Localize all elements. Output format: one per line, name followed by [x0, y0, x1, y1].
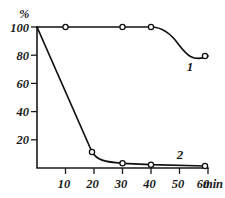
x-axis-ticks [66, 168, 209, 174]
y-tick-label-40: 40 [16, 105, 30, 119]
x-tick-label-20: 20 [85, 177, 99, 191]
y-axis-unit-label: % [19, 7, 29, 21]
x-tick-label-30: 30 [114, 177, 128, 191]
y-tick-label-60: 60 [17, 77, 30, 91]
x-tick-label-10: 10 [58, 177, 71, 191]
curve-label-1: 1 [187, 59, 194, 74]
curve-label-2: 2 [176, 147, 184, 162]
y-tick-label-100: 100 [10, 21, 30, 35]
y-tick-label-80: 80 [17, 49, 30, 63]
x-axis-unit-label: min [203, 177, 223, 191]
chart-plot-area: 100 80 60 40 20 % 10 20 30 40 50 60 min [0, 0, 225, 198]
x-tick-label-50: 50 [172, 177, 185, 191]
data-curve-2 [37, 27, 205, 166]
x-tick-label-40: 40 [142, 177, 156, 191]
y-tick-label-20: 20 [16, 133, 30, 147]
data-curve-1 [37, 27, 208, 59]
chart-figure: 100 80 60 40 20 % 10 20 30 40 50 60 min [0, 0, 225, 198]
y-axis-ticks [31, 27, 37, 140]
